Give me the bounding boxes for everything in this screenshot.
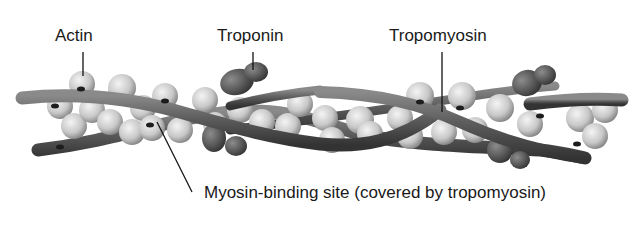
troponin-label: Troponin — [217, 27, 283, 44]
actin-label: Actin — [55, 27, 93, 44]
tropomyosin-label: Tropomyosin — [389, 27, 487, 44]
myosin-binding-site-label: Myosin-binding site (covered by tropomyo… — [204, 184, 546, 201]
thin-filament-diagram: Actin Troponin Tropomyosin Myosin-bindin… — [0, 0, 641, 229]
